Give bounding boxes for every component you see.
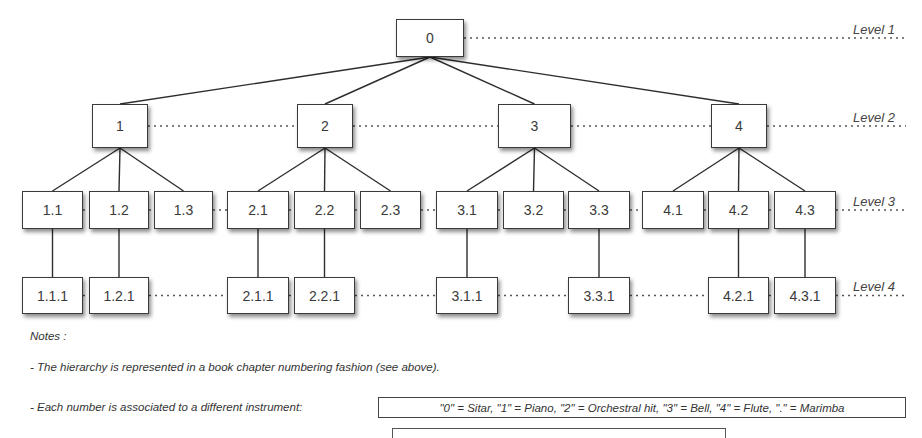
tree-node-1: 1 <box>92 104 148 148</box>
tree-node-4-3-1: 4.3.1 <box>774 277 836 314</box>
partial-box <box>392 428 726 438</box>
tree-node-4-2-1: 4.2.1 <box>708 277 769 314</box>
level-label-3: Level 3 <box>853 194 895 209</box>
tree-node-1-3: 1.3 <box>154 191 213 229</box>
tree-node-4: 4 <box>711 104 767 148</box>
tree-node-4-1: 4.1 <box>642 191 704 229</box>
notes-title: Notes : <box>30 330 66 342</box>
level-label-1: Level 1 <box>853 22 895 37</box>
level-label-4: Level 4 <box>853 279 895 294</box>
tree-node-3-1: 3.1 <box>436 191 498 229</box>
tree-node-3: 3 <box>498 104 571 148</box>
tree-node-3-1-1: 3.1.1 <box>436 277 498 314</box>
tree-node-2-1-1: 2.1.1 <box>227 277 289 314</box>
tree-node-1-1-1: 1.1.1 <box>22 277 83 314</box>
level-label-2: Level 2 <box>853 110 895 125</box>
tree-node-2-2: 2.2 <box>294 191 355 229</box>
tree-node-1-2: 1.2 <box>89 191 149 229</box>
tree-node-4-3: 4.3 <box>774 191 836 229</box>
tree-node-4-2: 4.2 <box>708 191 769 229</box>
tree-node-1-2-1: 1.2.1 <box>89 277 149 314</box>
tree-node-2-1: 2.1 <box>227 191 289 229</box>
instrument-mapping-box: "0" = Sitar, "1" = Piano, "2" = Orchestr… <box>378 397 906 418</box>
note-hierarchy: - The hierarchy is represented in a book… <box>30 361 440 373</box>
tree-node-3-2: 3.2 <box>503 191 564 229</box>
tree-node-1-1: 1.1 <box>22 191 83 229</box>
tree-node-3-3-1: 3.3.1 <box>568 277 630 314</box>
tree-node-0: 0 <box>396 19 464 57</box>
tree-node-2-3: 2.3 <box>360 191 421 229</box>
tree-node-3-3: 3.3 <box>568 191 630 229</box>
note-instruments: - Each number is associated to a differe… <box>30 401 302 413</box>
tree-node-2: 2 <box>297 104 353 148</box>
tree-node-2-2-1: 2.2.1 <box>294 277 355 314</box>
